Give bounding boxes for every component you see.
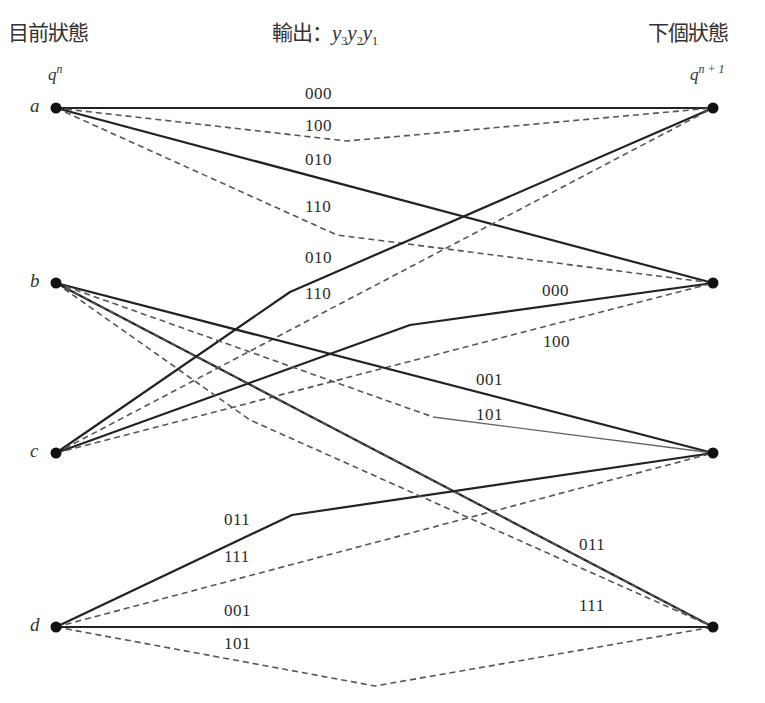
edge-label-b-c-101: 101: [476, 405, 503, 425]
trellis-diagram: [0, 0, 765, 703]
edge-label-c-a-110: 110: [305, 284, 331, 304]
edge-label-d-d-001: 001: [224, 601, 251, 621]
node-next-d: [708, 622, 719, 633]
edge-a-b-010: [56, 108, 713, 283]
edge-c-a-110: [56, 108, 713, 453]
node-current-c: [51, 448, 62, 459]
node-next-a: [708, 103, 719, 114]
edge-a-a-100: [56, 108, 713, 141]
node-current-d: [51, 622, 62, 633]
node-next-c: [708, 448, 719, 459]
edge-label-b-c-001: 001: [476, 370, 503, 390]
edge-label-b-d-011: 011: [579, 535, 605, 555]
edge-label-d-c-111: 111: [224, 547, 250, 567]
edge-label-a-b-010: 010: [305, 150, 332, 170]
edge-b-c-101-solid: [433, 417, 713, 453]
edge-label-a-a-100: 100: [305, 116, 332, 136]
edge-label-a-a-000: 000: [305, 84, 332, 104]
edge-label-c-a-010: 010: [305, 248, 332, 268]
node-next-b: [708, 278, 719, 289]
edge-label-d-c-011: 011: [224, 510, 250, 530]
edge-label-a-b-110: 110: [305, 197, 331, 217]
edge-label-b-d-111: 111: [579, 596, 605, 616]
edge-label-d-d-101: 101: [224, 634, 251, 654]
node-current-b: [51, 278, 62, 289]
edge-label-c-b-000: 000: [542, 281, 569, 301]
edge-label-c-b-100: 100: [543, 332, 570, 352]
edge-d-c-111: [56, 453, 713, 627]
edge-d-d-101: [56, 627, 713, 686]
edge-b-c-101-dashed: [56, 283, 433, 417]
node-current-a: [51, 103, 62, 114]
